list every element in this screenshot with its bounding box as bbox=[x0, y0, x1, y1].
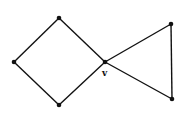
vertex-left bbox=[12, 60, 17, 65]
vertex-bottom-right bbox=[170, 97, 175, 102]
vertices-group bbox=[12, 16, 175, 108]
edge-top-v bbox=[59, 18, 105, 62]
vertex-v bbox=[103, 60, 108, 65]
edges-group bbox=[14, 18, 172, 105]
vertex-bottom bbox=[57, 103, 62, 108]
edge-bottom-right-v bbox=[105, 62, 172, 99]
edge-bottom-left bbox=[14, 62, 59, 105]
graph-diagram: v bbox=[0, 0, 183, 115]
vertex-top-right bbox=[169, 22, 174, 27]
cut-vertex-label: v bbox=[101, 68, 108, 78]
edge-left-top bbox=[14, 18, 59, 62]
vertex-top bbox=[57, 16, 62, 21]
edge-top-right-bottom-right bbox=[171, 24, 172, 99]
edge-v-top-right bbox=[105, 24, 171, 62]
edge-v-bottom bbox=[59, 62, 105, 105]
